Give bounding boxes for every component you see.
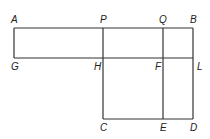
label-B: B — [190, 14, 197, 25]
label-D: D — [190, 122, 197, 133]
label-P: P — [100, 14, 107, 25]
label-A: A — [10, 14, 18, 25]
geometry-diagram: A P Q B G H F L C E D — [0, 0, 210, 139]
label-G: G — [11, 61, 19, 72]
label-Q: Q — [159, 14, 167, 25]
label-F: F — [155, 61, 162, 72]
label-L: L — [197, 61, 203, 72]
label-C: C — [100, 122, 108, 133]
label-E: E — [160, 122, 167, 133]
label-H: H — [94, 61, 102, 72]
